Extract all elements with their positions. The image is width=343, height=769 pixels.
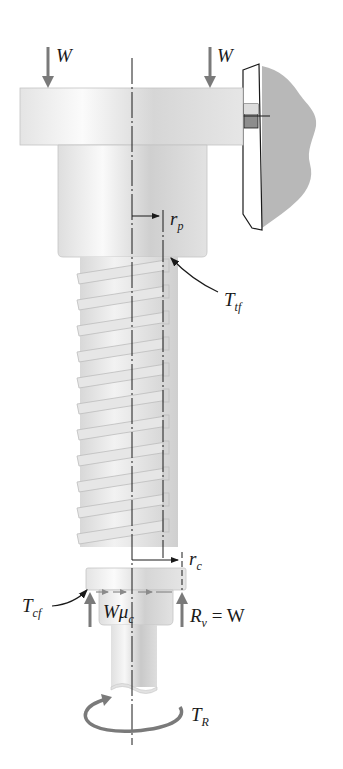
reaction-arrow-right (176, 592, 188, 627)
power-screw-diagram: W W rp Ttf rc Tcf Wμc Rv = W TR (0, 0, 343, 769)
label-collar-torque: Tcf (22, 595, 43, 620)
reaction-arrow-left (84, 592, 96, 627)
load-arrow-right (204, 47, 216, 88)
collar (86, 568, 186, 590)
label-reaction: Rv = W (189, 605, 245, 630)
label-collar-radius: rc (189, 548, 202, 573)
label-load-left: W (56, 45, 74, 66)
screw-shaft (111, 625, 157, 687)
collar-torque-leader (52, 590, 87, 606)
label-thread-torque: Ttf (224, 289, 243, 314)
label-applied-torque: TR (191, 704, 210, 729)
thread-torque-leader (171, 258, 218, 292)
label-load-right: W (217, 45, 235, 66)
wall-support (232, 64, 316, 230)
applied-torque-arrow (85, 694, 181, 731)
load-arrow-left (42, 47, 54, 88)
